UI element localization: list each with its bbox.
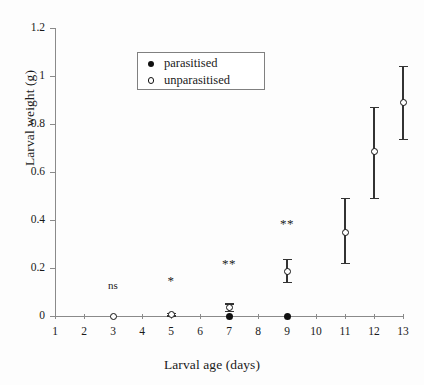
y-axis-tick-label: 0.2 xyxy=(11,262,45,273)
error-bar-cap-top xyxy=(341,198,350,199)
error-bar-cap-top xyxy=(399,66,408,67)
x-axis-tick-label: 7 xyxy=(217,326,241,337)
data-point-unparasitised xyxy=(284,268,291,275)
legend-label-parasitised: parasitised xyxy=(164,57,217,70)
x-axis-label: Larval age (days) xyxy=(0,357,424,373)
x-axis-tick xyxy=(403,314,404,319)
data-point-unparasitised xyxy=(400,99,407,106)
x-axis-tick-label: 10 xyxy=(304,326,328,337)
y-axis-tick-label: 1.2 xyxy=(11,22,45,33)
legend-entry-unparasitised: unparasitised xyxy=(138,72,264,89)
error-bar-cap-bottom xyxy=(341,263,350,264)
x-axis-tick xyxy=(84,314,85,319)
x-axis-tick-label: 2 xyxy=(72,326,96,337)
data-point-unparasitised xyxy=(168,311,175,318)
y-axis-tick-label: 0.8 xyxy=(11,118,45,129)
error-bar-cap-bottom xyxy=(370,198,379,199)
data-point-parasitised xyxy=(226,313,233,320)
data-point-parasitised xyxy=(284,313,291,320)
x-axis-tick xyxy=(374,314,375,319)
larval-weight-scatter-chart: Larval weight (g) Larval age (days) 00.2… xyxy=(0,0,424,385)
x-axis-tick-label: 1 xyxy=(43,326,67,337)
y-axis-tick-label: 0.6 xyxy=(11,166,45,177)
x-axis-tick-label: 11 xyxy=(333,326,357,337)
significance-annotation: ** xyxy=(272,218,302,229)
data-point-unparasitised xyxy=(226,304,233,311)
y-axis-tick xyxy=(50,124,55,125)
x-axis-tick-label: 6 xyxy=(188,326,212,337)
x-axis-tick xyxy=(316,314,317,319)
x-axis-tick-label: 9 xyxy=(275,326,299,337)
data-point-unparasitised xyxy=(110,313,117,320)
y-axis-tick xyxy=(50,268,55,269)
data-point-unparasitised xyxy=(371,148,378,155)
y-axis-tick xyxy=(50,28,55,29)
data-point-unparasitised xyxy=(342,229,349,236)
x-axis-tick-label: 4 xyxy=(130,326,154,337)
y-axis-line xyxy=(55,28,56,316)
legend-label-unparasitised: unparasitised xyxy=(164,74,230,87)
y-axis-tick-label: 1 xyxy=(11,70,45,81)
error-bar-cap-bottom xyxy=(399,139,408,140)
significance-annotation: * xyxy=(156,275,186,286)
y-axis-tick xyxy=(50,172,55,173)
significance-annotation: ** xyxy=(214,258,244,269)
x-axis-tick-label: 13 xyxy=(391,326,415,337)
significance-annotation: ns xyxy=(98,280,128,291)
y-axis-tick-label: 0 xyxy=(11,310,45,321)
open-circle-icon xyxy=(138,77,164,84)
filled-circle-icon xyxy=(138,61,164,67)
error-bar-cap-top xyxy=(283,259,292,260)
x-axis-tick-label: 12 xyxy=(362,326,386,337)
chart-legend: parasitised unparasitised xyxy=(137,52,265,90)
error-bar-cap-bottom xyxy=(283,282,292,283)
legend-entry-parasitised: parasitised xyxy=(138,55,264,72)
x-axis-tick xyxy=(200,314,201,319)
x-axis-tick-label: 5 xyxy=(159,326,183,337)
x-axis-tick xyxy=(142,314,143,319)
y-axis-tick xyxy=(50,76,55,77)
x-axis-tick xyxy=(258,314,259,319)
x-axis-tick xyxy=(55,314,56,319)
x-axis-tick-label: 3 xyxy=(101,326,125,337)
error-bar-cap-top xyxy=(370,107,379,108)
x-axis-tick xyxy=(345,314,346,319)
x-axis-tick-label: 8 xyxy=(246,326,270,337)
y-axis-tick-label: 0.4 xyxy=(11,214,45,225)
y-axis-tick xyxy=(50,220,55,221)
